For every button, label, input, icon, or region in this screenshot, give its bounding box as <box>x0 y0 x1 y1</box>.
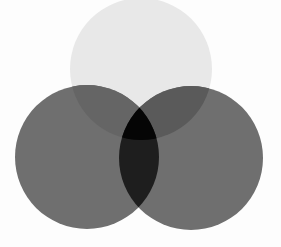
venn-diagram <box>0 0 281 247</box>
